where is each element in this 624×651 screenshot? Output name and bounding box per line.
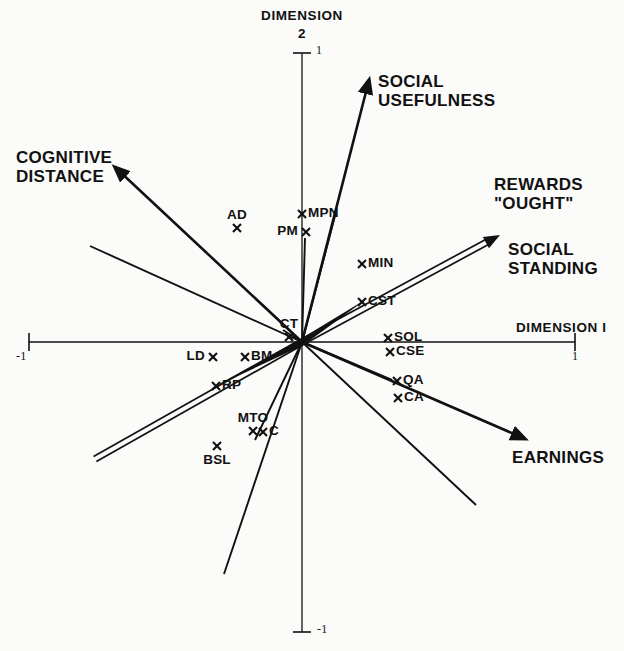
- x-axis-right-tick-label-text: 1: [572, 349, 578, 363]
- point-label-ad: AD: [207, 207, 267, 222]
- point-label-cse: CSE: [396, 343, 424, 358]
- data-point-marker: [384, 334, 392, 342]
- vector-label-rewards-ought: REWARDS "OUGHT": [494, 175, 583, 213]
- horizontal-axis-title: DIMENSION I: [516, 320, 607, 335]
- data-point-marker: [358, 260, 366, 268]
- x-axis-left-tick-label: -1: [16, 350, 27, 363]
- data-point-marker: [213, 442, 221, 450]
- data-point-marker: [241, 353, 249, 361]
- point-label-ca: CA: [404, 389, 424, 404]
- vector-label-social-standing: SOCIAL STANDING: [508, 240, 598, 278]
- data-point-marker: [259, 428, 267, 436]
- point-label-sol: SOL: [394, 329, 422, 344]
- point-label-mpn: MPN: [308, 205, 339, 220]
- data-point-marker: [249, 427, 257, 435]
- point-label-bm: BM: [251, 348, 272, 363]
- data-point-marker: [209, 353, 217, 361]
- point-label-min: MIN: [368, 255, 393, 270]
- vertical-axis-title-number-text: 2: [298, 26, 306, 41]
- point-label-bsl: BSL: [187, 452, 247, 467]
- vertical-axis-title: DIMENSION: [232, 8, 372, 23]
- data-point-marker: [394, 394, 402, 402]
- vector-label-social-usefulness: SOCIAL USEFULNESS: [378, 72, 495, 110]
- y-axis-top-tick-label: 1: [316, 44, 322, 57]
- data-point-marker: [358, 298, 366, 306]
- point-label-ld: LD: [125, 348, 205, 363]
- y-axis-bottom-tick-label-text: -1: [317, 622, 328, 636]
- mds-biplot-figure: ADMPNPMMINCSTCTSOLCSELDBMQACARPMTOCBSL S…: [0, 0, 624, 651]
- horizontal-axis-title-text: DIMENSION I: [516, 320, 607, 335]
- x-axis-left-tick-label-text: -1: [16, 349, 27, 363]
- vector-label-cognitive-distance: COGNITIVE DISTANCE: [16, 148, 112, 186]
- vector-plain-ray-lower-right: [302, 342, 476, 505]
- point-label-pm: PM: [218, 223, 298, 238]
- point-label-ct: CT: [259, 316, 319, 331]
- point-label-qa: QA: [403, 372, 424, 387]
- point-label-c: C: [269, 423, 279, 438]
- y-axis-bottom-tick-label: -1: [317, 623, 328, 636]
- x-axis-right-tick-label: 1: [572, 350, 578, 363]
- point-label-cst: CST: [368, 293, 396, 308]
- y-axis-top-tick-label-text: 1: [316, 43, 322, 57]
- point-label-rp: RP: [222, 377, 241, 392]
- vector-label-earnings: EARNINGS: [512, 448, 604, 467]
- vector-plain-ray-qa: [302, 342, 392, 380]
- data-point-marker: [386, 348, 394, 356]
- vertical-axis-title-text: DIMENSION: [261, 8, 343, 23]
- data-point-marker: [302, 228, 310, 236]
- vertical-axis-title-number: 2: [272, 26, 332, 41]
